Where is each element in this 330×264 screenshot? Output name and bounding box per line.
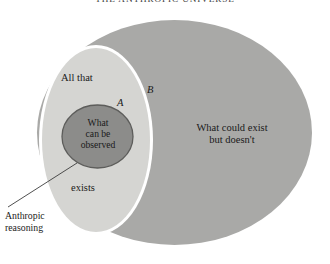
label-region-b: B	[147, 84, 153, 96]
label-what-can-be-observed: What can be observed	[64, 118, 132, 151]
label-all-that: All that	[61, 72, 93, 84]
label-what-could-exist-but-doesnt: What could exist but doesn't	[172, 122, 292, 146]
label-exists: exists	[71, 182, 95, 194]
label-region-a: A	[117, 97, 123, 109]
label-anthropic-reasoning: Anthropic reasoning	[5, 210, 45, 234]
diagram-canvas: THE ANTHROPIC UNIVERSE All that exists W…	[0, 0, 330, 264]
